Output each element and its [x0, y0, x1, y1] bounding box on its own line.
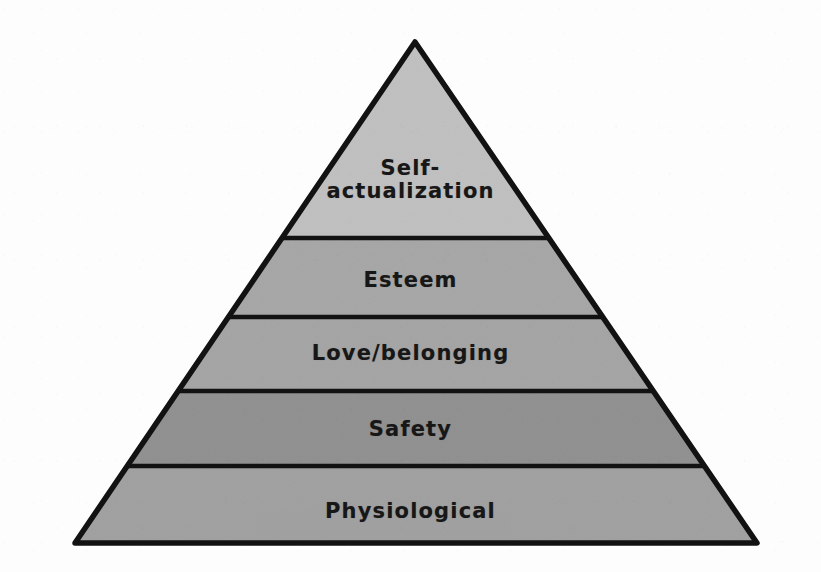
- pyramid-diagram-canvas: Self- actualization Esteem Love/belongin…: [0, 0, 821, 572]
- tier-label-self-actualization: Self- actualization: [0, 157, 821, 204]
- tier-label-safety: Safety: [0, 418, 821, 442]
- tier-label-esteem: Esteem: [0, 269, 821, 293]
- tier-label-physiological: Physiological: [0, 500, 821, 524]
- tier-label-love-belonging: Love/belonging: [0, 342, 821, 366]
